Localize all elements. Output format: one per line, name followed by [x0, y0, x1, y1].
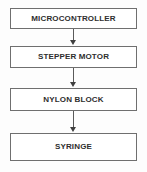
flow-node-label: NYLON BLOCK	[43, 96, 103, 104]
flow-node-label: STEPPER MOTOR	[38, 53, 109, 61]
arrow-head-icon	[70, 40, 76, 45]
flow-arrow-stepper-motor-to-nylon-block	[0, 68, 147, 88]
flow-node-label: MICROCONTROLLER	[31, 15, 115, 23]
flow-node-label: SYRINGE	[55, 143, 92, 151]
flow-node-nylon-block: NYLON BLOCK	[10, 88, 137, 111]
flow-arrow-microcontroller-to-stepper-motor	[0, 29, 147, 46]
flow-node-microcontroller: MICROCONTROLLER	[10, 8, 137, 29]
arrow-head-icon	[70, 82, 76, 87]
flowchart-diagram: MICROCONTROLLER STEPPER MOTOR NYLON BLOC…	[0, 0, 147, 172]
arrow-head-icon	[70, 127, 76, 132]
arrow-line	[73, 68, 74, 83]
flow-node-stepper-motor: STEPPER MOTOR	[10, 46, 137, 68]
flow-node-syringe: SYRINGE	[10, 133, 137, 161]
arrow-line	[73, 111, 74, 128]
flow-arrow-nylon-block-to-syringe	[0, 111, 147, 133]
